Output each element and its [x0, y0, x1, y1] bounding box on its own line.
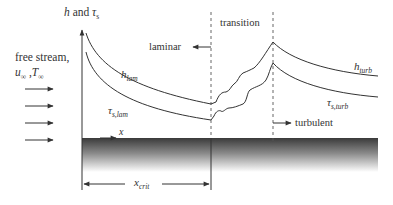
h-turb-sub: turb [360, 66, 373, 75]
free-stream-vars: u∞ ,T∞ [15, 67, 44, 81]
h-lam-sub: lam [127, 74, 138, 83]
h-turb-label: hturb [354, 61, 372, 75]
y-axis-label: h and τs [64, 7, 99, 21]
free-stream-arrows [25, 89, 53, 140]
flat-plate [82, 138, 378, 172]
tau-turb-label: τs,turb [327, 97, 348, 111]
tau-turb-sub: s,turb [331, 102, 348, 111]
h-lam-label: hlam [121, 69, 138, 83]
x-crit-label: xcrit [134, 177, 149, 191]
tau-lam-sub: s,lam [112, 110, 128, 119]
turbulent-label: turbulent [295, 118, 333, 129]
y-label-h: h [64, 6, 70, 18]
y-label-and: and [73, 6, 90, 18]
x-crit-sub: crit [139, 182, 149, 191]
free-stream-label: free stream, [15, 52, 69, 64]
y-label-tau-sub: s [96, 12, 99, 21]
transition-label: transition [220, 18, 260, 29]
tau-lam-label: τs,lam [108, 105, 128, 119]
u-sub: ∞ [21, 72, 26, 81]
t-sub: ∞ [38, 72, 43, 81]
laminar-label: laminar [149, 42, 181, 53]
x-axis-label: x [119, 127, 123, 137]
